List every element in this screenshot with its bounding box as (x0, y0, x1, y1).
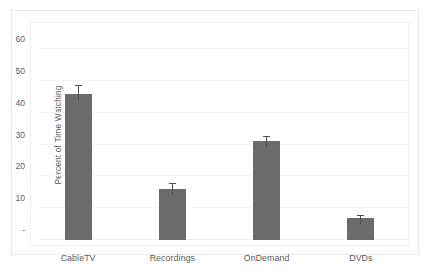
y-axis-tick-label: - (22, 225, 25, 235)
error-bar-cap (75, 85, 82, 86)
error-bar-cap (263, 136, 270, 137)
x-axis-tick-label: Recordings (150, 253, 196, 263)
error-bar-stem (360, 216, 361, 224)
gridline (39, 144, 408, 145)
x-axis-tick-label: OnDemand (244, 253, 290, 263)
y-axis-tick-label: 50 (15, 66, 25, 76)
y-axis-tick-label: 20 (15, 161, 25, 171)
plot-area: Percent of Time Watching -102030405060 C… (30, 22, 409, 246)
error-bar-cap (169, 183, 176, 184)
y-axis-tick-label: 40 (15, 98, 25, 108)
error-bar-stem (266, 137, 267, 148)
gridline (39, 175, 408, 176)
bar (253, 141, 280, 240)
gridline (39, 112, 408, 113)
y-axis-tick-label: 30 (15, 130, 25, 140)
x-axis-tick-label: CableTV (61, 253, 96, 263)
error-bar-cap (357, 215, 364, 216)
bar (159, 189, 186, 240)
chart-frame: Percent of Time Watching -102030405060 C… (11, 10, 419, 255)
error-bar-stem (78, 86, 79, 100)
gridline (39, 48, 408, 49)
y-axis-tick-label: 10 (15, 193, 25, 203)
error-bar-stem (172, 184, 173, 195)
x-axis-tick-label: DVDs (349, 253, 372, 263)
gridline (39, 207, 408, 208)
bar (65, 94, 92, 240)
y-axis-tick-label: 60 (15, 34, 25, 44)
gridline (39, 80, 408, 81)
